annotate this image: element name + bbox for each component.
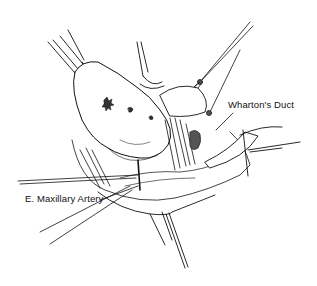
submandibular-gland xyxy=(74,62,171,161)
instrument-lines-left xyxy=(18,175,138,244)
surgical-illustration: Wharton's Duct E. Maxillary Artery xyxy=(0,0,317,286)
tissue-right xyxy=(160,86,206,116)
retractor-top-center xyxy=(137,42,164,89)
label-maxillary-artery: E. Maxillary Artery xyxy=(25,193,103,204)
label-whartons-duct: Wharton's Duct xyxy=(228,99,294,110)
retractor-right xyxy=(205,127,300,176)
skin-flap-lower xyxy=(98,192,215,268)
illustration-drawing xyxy=(0,0,317,286)
